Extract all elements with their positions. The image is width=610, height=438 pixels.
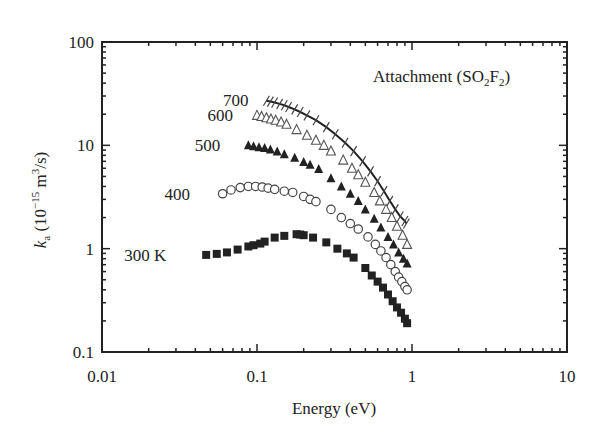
annotation-main: Attachment (SO	[373, 67, 484, 86]
data-point	[299, 157, 308, 166]
data-point	[202, 251, 210, 259]
data-point	[350, 254, 358, 262]
data-point	[346, 219, 354, 227]
data-point	[227, 186, 235, 194]
chart-annotation: Attachment (SO2F2)	[373, 67, 510, 88]
data-point	[402, 216, 408, 226]
data-point	[261, 238, 269, 246]
annotation-mid: F	[489, 67, 498, 86]
data-point	[339, 155, 348, 164]
data-point	[375, 196, 384, 205]
data-point	[234, 246, 242, 254]
data-point	[346, 189, 355, 198]
data-point	[312, 197, 320, 205]
data-point	[364, 233, 372, 241]
data-point	[332, 129, 338, 139]
ylabel-end: /s)	[31, 152, 50, 169]
series-label: 400	[165, 185, 191, 204]
data-point	[323, 122, 329, 132]
data-point	[273, 147, 282, 156]
data-point	[270, 185, 278, 193]
data-markers	[202, 96, 411, 327]
data-point	[319, 140, 328, 149]
data-point	[376, 223, 385, 232]
data-point	[327, 205, 335, 213]
y-tick-label: 1	[86, 240, 95, 259]
ylabel-exp: −15	[29, 191, 41, 209]
x-axis-title: Energy (eV)	[292, 399, 376, 418]
data-point	[383, 232, 392, 241]
series-500	[244, 140, 412, 267]
data-point	[333, 245, 341, 253]
attachment-rate-chart: 0.010.11100.1110100 300 K400500600700 At…	[0, 0, 610, 438]
data-point	[309, 234, 317, 242]
data-point	[394, 247, 403, 256]
data-point	[379, 284, 387, 292]
data-point	[236, 183, 244, 191]
data-point	[290, 153, 299, 162]
data-point	[280, 149, 289, 158]
data-point	[223, 248, 231, 256]
data-point	[280, 232, 288, 240]
ylabel-pre: (10	[31, 209, 50, 236]
data-point	[398, 230, 407, 239]
data-point	[370, 187, 379, 196]
y-tick-label: 10	[77, 136, 94, 155]
x-tick-label: 0.01	[87, 367, 117, 386]
y-axis-title: ka (10−15 m3/s)	[29, 152, 52, 249]
data-point	[342, 138, 348, 148]
data-point	[354, 196, 363, 205]
data-point	[361, 204, 370, 213]
data-point	[403, 239, 412, 248]
data-point	[382, 204, 391, 213]
data-point	[300, 231, 308, 239]
data-point	[322, 238, 330, 246]
data-point	[361, 264, 369, 272]
data-point	[302, 130, 311, 139]
data-point	[314, 164, 323, 173]
series-label: 500	[195, 136, 221, 155]
series-label: 300 K	[124, 246, 167, 265]
ylabel-mid: m	[31, 174, 50, 191]
data-point	[403, 319, 411, 327]
data-point	[370, 214, 379, 223]
x-tick-label: 1	[408, 367, 417, 386]
data-point	[311, 135, 320, 144]
data-point	[218, 190, 226, 198]
series-labels: 300 K400500600700	[124, 91, 248, 265]
data-point	[280, 187, 288, 195]
data-point	[354, 225, 362, 233]
data-point	[403, 286, 411, 294]
data-point	[271, 234, 279, 242]
data-point	[337, 213, 345, 221]
data-point	[347, 163, 356, 172]
data-point	[289, 188, 297, 196]
data-point	[392, 221, 401, 230]
annotation-end: )	[504, 67, 510, 86]
x-tick-label: 10	[559, 367, 576, 386]
series-label: 700	[223, 91, 249, 110]
data-point	[292, 125, 301, 134]
y-tick-label: 0.1	[73, 343, 94, 362]
data-point	[326, 173, 335, 182]
y-tick-label: 100	[69, 33, 95, 52]
data-point	[337, 181, 346, 190]
x-tick-label: 0.1	[246, 367, 267, 386]
data-point	[213, 250, 221, 258]
